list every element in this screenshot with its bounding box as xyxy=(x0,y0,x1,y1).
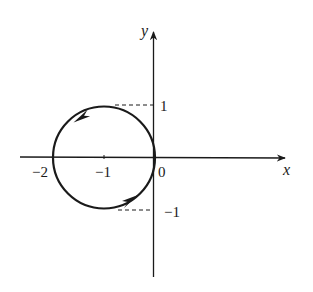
origin-label: 0 xyxy=(158,164,166,180)
x-axis-label: x xyxy=(282,161,290,178)
y-tick-label-minus-1: −1 xyxy=(164,204,180,220)
direction-arrow-lower-icon xyxy=(122,195,138,208)
x-axis xyxy=(20,157,285,158)
x-tick-label-minus-2: −2 xyxy=(32,164,48,180)
y-tick-label-1: 1 xyxy=(160,98,168,114)
x-tick-label-minus-1: −1 xyxy=(95,164,111,180)
y-axis-label: y xyxy=(139,22,149,40)
coordinate-diagram: y x 0 −2 −1 1 −1 xyxy=(0,0,313,292)
